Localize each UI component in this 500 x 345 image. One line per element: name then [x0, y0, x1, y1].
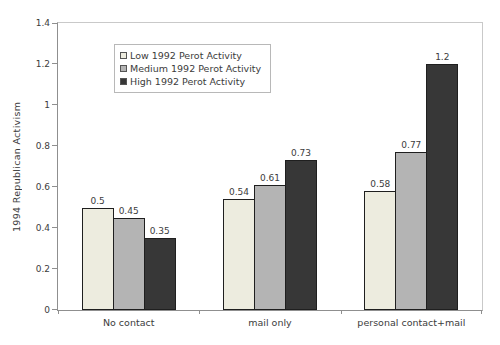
bar-value-label: 0.54 — [229, 187, 249, 197]
x-axis-tick — [58, 310, 59, 314]
y-axis-tick — [52, 63, 57, 64]
bar-value-label: 1.2 — [435, 52, 449, 62]
bar-value-label: 0.61 — [260, 173, 280, 183]
bar-chart-figure: 1994 Republican Activism Low 1992 Perot … — [0, 0, 500, 345]
bar-value-label: 0.73 — [291, 148, 311, 158]
bar: 0.5 — [82, 208, 114, 311]
bar-group: 0.50.450.35No contact — [58, 23, 199, 310]
bar: 0.73 — [285, 160, 317, 310]
y-axis-tick-label: 0.8 — [36, 141, 50, 151]
x-category-label: No contact — [58, 317, 199, 328]
y-axis-tick — [52, 309, 57, 310]
y-axis-tick-label: 0.6 — [36, 182, 50, 192]
y-axis-tick — [52, 186, 57, 187]
y-axis-tick-label: 1 — [44, 100, 50, 110]
bar: 0.45 — [113, 218, 145, 310]
x-axis-tick — [199, 310, 200, 314]
bar-group: 0.540.610.73mail only — [199, 23, 340, 310]
y-axis-tick-label: 0.2 — [36, 264, 50, 274]
y-axis-tick — [52, 227, 57, 228]
y-axis-tick-label: 0.4 — [36, 223, 50, 233]
bar-value-label: 0.58 — [370, 179, 390, 189]
bar: 0.77 — [395, 152, 427, 310]
y-axis-tick-label: 1.4 — [36, 18, 50, 28]
y-axis-tick-label: 0 — [44, 305, 50, 315]
bar-value-label: 0.45 — [119, 206, 139, 216]
bar-group: 0.580.771.2personal contact+mail — [341, 23, 482, 310]
bar: 0.35 — [144, 238, 176, 310]
y-axis-tick — [52, 145, 57, 146]
y-axis-tick-label: 1.2 — [36, 59, 50, 69]
x-category-label: mail only — [199, 317, 340, 328]
bar: 0.61 — [254, 185, 286, 310]
y-axis-tick — [52, 104, 57, 105]
x-axis-tick — [341, 310, 342, 314]
y-axis-tick — [52, 268, 57, 269]
y-axis-title: 1994 Republican Activism — [11, 22, 22, 311]
bar-value-label: 0.77 — [401, 140, 421, 150]
bar: 1.2 — [426, 64, 458, 310]
y-axis-tick — [52, 23, 57, 24]
x-category-label: personal contact+mail — [341, 317, 482, 328]
bar: 0.54 — [223, 199, 255, 310]
bar-value-label: 0.35 — [150, 226, 170, 236]
plot-area: Low 1992 Perot ActivityMedium 1992 Perot… — [57, 22, 483, 311]
bar-value-label: 0.5 — [90, 196, 104, 206]
bar: 0.58 — [364, 191, 396, 310]
x-axis-tick — [481, 310, 482, 314]
